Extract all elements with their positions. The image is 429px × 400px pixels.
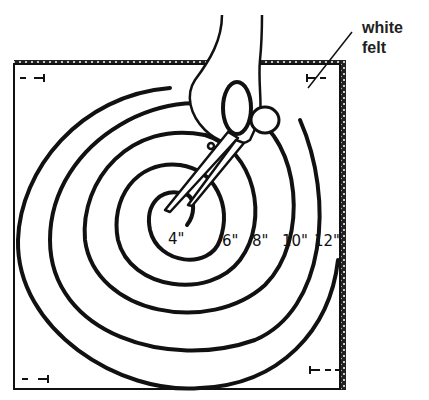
callout-line1: white: [362, 18, 403, 38]
measure-8: 8": [252, 232, 268, 250]
felt-spiral-drawing: [0, 0, 429, 400]
callout-line2: felt: [362, 38, 403, 58]
measure-12: 12": [314, 232, 340, 250]
white-felt-label: white felt: [362, 18, 403, 58]
measure-10: 10": [282, 232, 308, 250]
measure-4: 4": [168, 230, 184, 248]
measure-6: 6": [222, 232, 238, 250]
